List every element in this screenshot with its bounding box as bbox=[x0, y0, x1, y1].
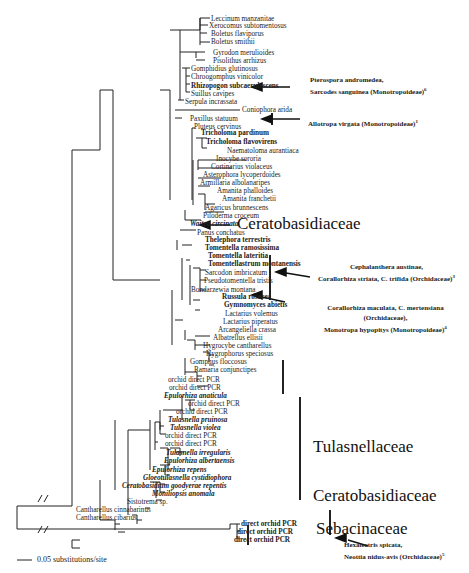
annotation-cephalanthera: Cephalanthera austinae, Corallorhiza str… bbox=[318, 262, 455, 284]
taxon-label: Sarcodon imbricatum bbox=[205, 269, 267, 277]
taxon-label: orchid direct PCR bbox=[165, 432, 217, 440]
taxon-label: Asterophora lycoperdoides bbox=[203, 171, 281, 179]
taxon-label: Naematoloma aurantiaca bbox=[227, 147, 299, 155]
taxon-label: Albatrellus ellisii bbox=[213, 334, 263, 342]
taxon-label: Gyrodon merulioides bbox=[213, 49, 274, 57]
taxon-label: Agaricus brunnescens bbox=[205, 204, 268, 212]
taxon-label: Hygrocybe cantharellus bbox=[203, 342, 271, 350]
taxon-label: orchid direct PCR bbox=[168, 376, 220, 384]
taxon-label: Tomentella lateritia bbox=[208, 252, 268, 260]
taxon-label: orchid direct PCR bbox=[176, 408, 228, 416]
scale-bar-label: 0.05 substitutions/site bbox=[37, 555, 107, 564]
taxon-label: Ceratobasidium goodyerae repentis bbox=[122, 482, 227, 490]
taxon-label: Amanita franchetii bbox=[222, 195, 276, 203]
taxon-label: Hygrophorus speciosus bbox=[206, 350, 273, 358]
taxon-label: Gomphidius glutinosus bbox=[191, 65, 258, 73]
taxon-label: Tricholoma flavovirens bbox=[206, 138, 277, 146]
taxon-label: direct orchid PCR bbox=[237, 528, 293, 536]
taxon-label: Lactarius piperatus bbox=[223, 318, 278, 326]
taxon-label: Tricholoma pardinum bbox=[201, 129, 269, 137]
taxon-label: Cortinarius violaceus bbox=[211, 163, 272, 171]
taxon-label: Sistotrema sp. bbox=[127, 498, 168, 506]
taxon-label: Tulasnella violea bbox=[170, 424, 221, 432]
taxon-label: Paxillus statuum bbox=[190, 115, 238, 123]
taxon-label: Thelephora terrestris bbox=[205, 236, 271, 244]
taxon-label: Tomentellastrum montanensis bbox=[208, 260, 301, 268]
taxon-label: Ramaria conjunctipes bbox=[194, 366, 256, 374]
taxon-label: Coniophora arida bbox=[242, 106, 292, 114]
taxon-label: Suillus cavipes bbox=[191, 90, 234, 98]
annotation-hexalectris: Hexalectris spicata, Neottia nidus-avis … bbox=[344, 540, 444, 562]
taxon-label: Rhizopogon subcaerulescens bbox=[191, 82, 279, 90]
taxon-label: Gymnomyces abietis bbox=[224, 301, 287, 309]
taxon-label: Epulorhiza anaticula bbox=[164, 392, 227, 400]
taxon-label: orchid direct PCR bbox=[188, 400, 240, 408]
taxon-label: Cantharellus cibarius bbox=[76, 514, 137, 522]
taxon-label: Boletus smithii bbox=[211, 38, 255, 46]
family-label-ceratobasidiaceae: Ceratobasidiaceae bbox=[237, 215, 361, 233]
taxon-label: Serpula incrassata bbox=[185, 98, 237, 106]
taxon-label: Boletus flaviporus bbox=[211, 30, 264, 38]
taxon-label: Amanita phalloides bbox=[217, 187, 273, 195]
taxon-label: Tomentella ramosissima bbox=[205, 244, 279, 252]
taxon-label: Epulorhiza albertaensis bbox=[164, 457, 235, 465]
taxon-label: Armillaria albolanaripes bbox=[200, 179, 270, 187]
taxon-label: Tulasnella pruinosa bbox=[168, 416, 227, 424]
taxon-label: Pisolithus arrhizus bbox=[213, 57, 266, 65]
taxon-label: direct orchid PCR bbox=[234, 536, 290, 544]
family-label-sebacinaceae: Sebacinaceae bbox=[316, 520, 408, 538]
taxon-label: Tulasnella irregularis bbox=[166, 449, 231, 457]
taxon-label: Waitea circinata bbox=[190, 220, 238, 228]
taxon-label: Xerocomus subtomentosus bbox=[209, 22, 287, 30]
taxon-label: Gloeotulasnella cystidiophora bbox=[143, 474, 231, 482]
taxon-label: Chroogomphus vinicolor bbox=[191, 73, 263, 81]
annotation-allotropa: Allotropa virgata (Monotropoideae)1 bbox=[308, 117, 418, 129]
taxon-label: orchid direct PCR bbox=[165, 440, 217, 448]
taxon-label: Inocybe sororia bbox=[216, 155, 261, 163]
taxon-label: Cantharellus cinnabarinus bbox=[76, 506, 151, 514]
taxon-label: Pseudotomentella tristis bbox=[204, 277, 273, 285]
taxon-label: Moniliopsis anomala bbox=[152, 490, 215, 498]
annotation-corallorhiza: Corallorhiza maculata, C. mertensiana (O… bbox=[324, 303, 447, 335]
family-label-tulasnellaceae: Tulasnellaceae bbox=[313, 438, 413, 456]
taxon-label: Epulorhiza repens bbox=[152, 466, 207, 474]
taxon-label: Russula rosacea bbox=[222, 293, 271, 301]
taxon-label: orchid direct PCR bbox=[169, 384, 221, 392]
taxon-label: Lactarius volemus bbox=[225, 310, 278, 318]
taxon-label: direct orchid PCR bbox=[241, 520, 297, 528]
family-label-ceratobasidiaceae: Ceratobasidiaceae bbox=[313, 487, 437, 505]
taxon-label: Arcangeliella crassa bbox=[218, 326, 276, 334]
taxon-label: Gomphus floccosus bbox=[190, 358, 247, 366]
annotation-monotropoideae-6: Pterospora andromedea, Sarcodes sanguine… bbox=[310, 75, 427, 97]
